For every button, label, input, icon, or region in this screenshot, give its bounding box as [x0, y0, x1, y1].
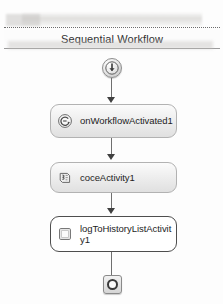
- connector-arrow-start-to-activity1: [107, 97, 115, 103]
- event-handler-icon: [56, 112, 74, 130]
- log-activity-icon: [56, 225, 74, 243]
- stop-ring-icon: [107, 279, 118, 290]
- connector-line-start-to-activity1: [111, 78, 112, 98]
- start-node[interactable]: [102, 58, 122, 78]
- connector-line-activity2-to-activity3: [111, 193, 112, 209]
- workflow-designer-canvas[interactable]: Sequential Workflow onWorkflowActivated1: [0, 0, 223, 304]
- activity-box-logtohistorylist[interactable]: logToHistoryListActivity1: [50, 216, 177, 252]
- activity-label: onWorkflowActivated1: [80, 115, 176, 127]
- activity-box-code[interactable]: coceActivity1: [50, 162, 177, 193]
- activity-box-onworkflowactivated[interactable]: onWorkflowActivated1: [50, 104, 177, 138]
- activity-label: coceActivity1: [80, 172, 138, 184]
- connector-arrow-activity1-to-activity2: [107, 154, 115, 160]
- code-activity-icon: [56, 169, 74, 187]
- scan-artifact-left: [6, 14, 40, 26]
- connector-arrow-activity2-to-activity3: [107, 208, 115, 214]
- scan-artifact-top: [22, 12, 202, 26]
- end-node[interactable]: [103, 275, 122, 294]
- connector-line-activity1-to-activity2: [111, 138, 112, 155]
- activity-label: logToHistoryListActivity1: [80, 223, 176, 246]
- scan-artifact-header: [8, 41, 213, 49]
- circle-down-arrow-icon: [105, 61, 119, 75]
- workflow-root-boundary: [4, 27, 220, 28]
- connector-line-activity3-to-end: [111, 252, 112, 275]
